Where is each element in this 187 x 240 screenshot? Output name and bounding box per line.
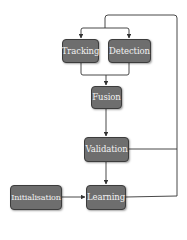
edge-tracking-merge [81, 63, 129, 75]
node-validation: Validation [84, 137, 129, 162]
node-detection: Detection [108, 39, 151, 63]
node-fusion: Fusion [91, 86, 122, 109]
node-fusion-label: Fusion [92, 93, 120, 102]
node-tracking-label: Tracking [62, 47, 100, 56]
node-learning-label: Learning [87, 193, 125, 202]
node-validation-label: Validation [85, 145, 127, 154]
node-initialisation: Initialisation [10, 185, 62, 210]
edge-to-detection [105, 28, 129, 38]
edge-to-tracking [81, 28, 105, 38]
node-learning: Learning [86, 185, 126, 210]
node-tracking: Tracking [62, 39, 99, 63]
node-detection-label: Detection [109, 47, 150, 56]
node-initialisation-label: Initialisation [11, 194, 61, 202]
